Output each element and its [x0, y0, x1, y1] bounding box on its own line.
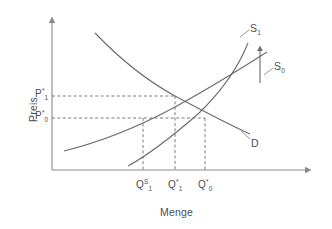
y-tick-p0-sup: *	[42, 109, 45, 116]
x-tick-q1-sup: *	[176, 178, 179, 185]
x-tick-label-q0: Q*0	[198, 180, 213, 190]
supply-demand-figure: Preis Menge P*1 P*0 QS1 Q*1 Q*0 S1 S0 D	[0, 0, 332, 229]
x-tick-qs1-sup: S	[144, 178, 149, 185]
y-tick-p0-sub: 0	[45, 116, 49, 123]
y-tick-p1-sub: 1	[45, 94, 49, 101]
x-tick-qs1-base: Q	[136, 179, 144, 190]
curve-label-s0: S0	[274, 61, 285, 72]
y-tick-p1-sup: *	[42, 87, 45, 94]
curve-label-d: D	[251, 138, 259, 149]
y-tick-p0-base: P	[35, 110, 42, 121]
x-tick-q0-base: Q	[198, 179, 206, 190]
x-tick-q1-base: Q	[168, 179, 176, 190]
x-tick-q1-sub: 1	[179, 185, 183, 192]
x-axis-title: Menge	[160, 207, 193, 218]
y-tick-label-p0: P*0	[35, 111, 48, 121]
plot-canvas	[0, 0, 332, 229]
y-tick-p1-base: P	[35, 88, 42, 99]
x-tick-qs1-sub: 1	[149, 185, 153, 192]
curve-label-s1: S1	[250, 23, 261, 34]
x-tick-label-q1: Q*1	[168, 180, 183, 190]
label-leader-lines	[240, 30, 273, 139]
curve-label-d-base: D	[251, 137, 259, 149]
x-tick-q0-sup: *	[206, 178, 209, 185]
y-tick-label-p1: P*1	[35, 89, 48, 99]
guide-lines	[52, 96, 205, 170]
curve-label-s0-sub: 0	[281, 67, 285, 74]
demand-curve	[95, 33, 250, 134]
leader-s1	[240, 30, 249, 37]
x-tick-q0-sub: 0	[209, 185, 213, 192]
x-tick-label-qs1: QS1	[136, 180, 152, 190]
supply-curve-s1	[128, 43, 248, 166]
leader-s0	[264, 68, 273, 75]
curve-label-s1-sub: 1	[257, 29, 261, 36]
